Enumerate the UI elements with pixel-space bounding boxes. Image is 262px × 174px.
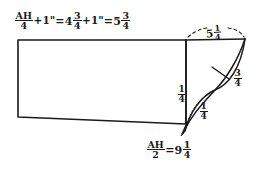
technical-sketch: AH 4 +1" = 4 3 4 +1" = 5 3 4 5 1 4 [0, 0, 262, 174]
top-equation-plus-one-2: +1" [82, 15, 104, 25]
top-span-dimension: 5 1 4 [205, 23, 222, 42]
top-equation-equals-1: = [55, 16, 64, 27]
top-equation-plus-one: +1" [34, 15, 56, 25]
top-span-fraction: 1 4 [213, 23, 222, 41]
right-offset-fraction: 3 4 [234, 69, 242, 89]
bottom-equation-result-fraction: 1 4 [183, 140, 192, 161]
top-equation-equals-2: = [104, 16, 113, 27]
bottom-equation-lead-fraction: AH 2 [147, 140, 165, 161]
dashed-span-arc-right [228, 28, 244, 37]
vertical-offset-dimension: 1 4 [177, 83, 186, 105]
bottom-equation-result-whole: 9 [175, 145, 183, 156]
top-span-whole: 5 [206, 28, 214, 39]
right-offset-dimension: 3 4 [233, 67, 242, 89]
diagonal-offset-fraction: 1 4 [200, 102, 208, 122]
taper-cross-tick [212, 67, 229, 79]
top-height-equation: AH 4 +1" = 4 3 4 +1" = 5 3 4 [14, 10, 131, 32]
top-equation-result-fraction: 3 4 [121, 11, 130, 32]
bottom-width-equation: AH 2 = 9 1 4 [146, 139, 192, 161]
diagonal-offset-dimension: 1 4 [199, 100, 208, 122]
bottom-equation-equals: = [165, 145, 174, 156]
top-equation-value-fraction: 3 4 [73, 11, 82, 32]
vertical-offset-fraction: 1 4 [178, 85, 186, 105]
top-equation-result-whole: 5 [113, 16, 121, 27]
main-panel-outline [18, 40, 186, 124]
top-equation-value-whole: 4 [65, 16, 73, 27]
top-equation-lead-fraction: AH 4 [15, 11, 34, 32]
